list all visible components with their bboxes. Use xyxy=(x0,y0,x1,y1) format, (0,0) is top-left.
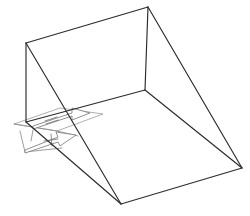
wedge-solid-diagram xyxy=(0,0,250,216)
figure-root xyxy=(0,0,250,216)
